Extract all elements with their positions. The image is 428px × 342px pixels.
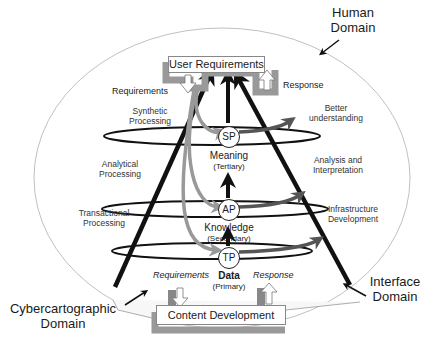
transactional-line2: Processing bbox=[75, 219, 133, 229]
better-line2: understanding bbox=[303, 114, 369, 124]
secondary-label: (Secondary) bbox=[195, 234, 263, 243]
interface-domain-line1: Interface bbox=[360, 275, 428, 290]
bottom-req-block bbox=[168, 290, 176, 305]
tp-node: TP bbox=[218, 247, 240, 269]
knowledge-label: Knowledge bbox=[195, 222, 263, 234]
primary-label: (Primary) bbox=[205, 282, 253, 291]
infra-line2: Development bbox=[320, 215, 386, 225]
synthetic-processing-label: Synthetic Processing bbox=[125, 107, 175, 127]
synthetic-line2: Processing bbox=[125, 117, 175, 127]
better-understanding-label: Better understanding bbox=[303, 104, 369, 124]
interface-domain-label: Interface Domain bbox=[360, 275, 428, 305]
bottom-response-label: Response bbox=[253, 270, 294, 280]
cyber-domain-line2: Domain bbox=[8, 317, 118, 332]
analytical-line2: Processing bbox=[95, 170, 145, 180]
bottom-requirements-label: Requirements bbox=[153, 270, 209, 280]
cyber-domain-label: Cybercartographic Domain bbox=[8, 302, 118, 332]
human-domain-line1: Human bbox=[318, 6, 388, 21]
analysis-line2: Interpretation bbox=[305, 166, 371, 176]
requirements-flow-arrow-2 bbox=[189, 90, 218, 207]
top-response-label: Response bbox=[283, 80, 324, 90]
data-label: Data bbox=[205, 270, 253, 282]
meaning-label: Meaning bbox=[200, 150, 258, 162]
top-requirements-label: Requirements bbox=[112, 86, 168, 96]
interface-domain-line2: Domain bbox=[360, 290, 428, 305]
sp-node: SP bbox=[218, 126, 240, 148]
analysis-interpretation-label: Analysis and Interpretation bbox=[305, 156, 371, 176]
content-development-box: Content Development bbox=[156, 305, 286, 325]
human-domain-label: Human Domain bbox=[318, 6, 388, 36]
analytical-loop bbox=[102, 201, 328, 217]
analytical-processing-label: Analytical Processing bbox=[95, 160, 145, 180]
transactional-processing-label: Transactional Processing bbox=[75, 209, 133, 229]
ap-node: AP bbox=[218, 199, 240, 221]
infrastructure-development-label: Infrastructure Development bbox=[320, 205, 386, 225]
tertiary-label: (Tertiary) bbox=[200, 162, 258, 171]
human-domain-pointer bbox=[322, 40, 339, 53]
cyber-domain-line1: Cybercartographic bbox=[8, 302, 118, 317]
user-requirements-box: User Requirements bbox=[168, 56, 265, 73]
human-domain-line2: Domain bbox=[318, 21, 388, 36]
